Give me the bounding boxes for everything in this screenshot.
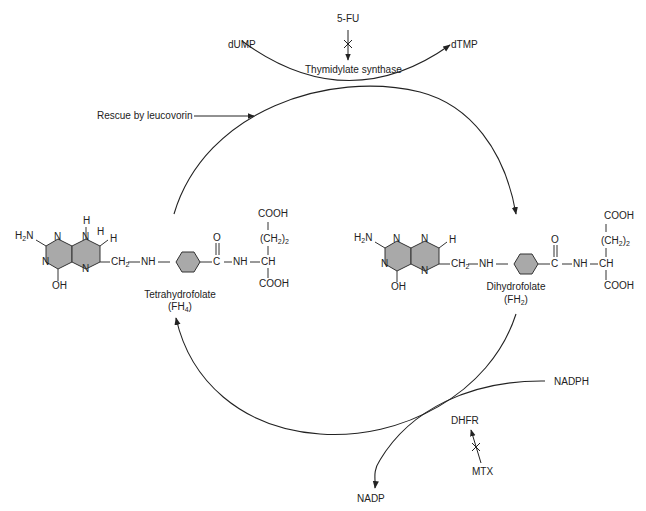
- fh4-alpha-ch: CH: [261, 257, 275, 267]
- pathway-diagram: [0, 0, 646, 511]
- fh2-carbonyl-c: C: [551, 259, 558, 269]
- fh4-carbonyl-o: O: [213, 233, 221, 243]
- fh4-ch2: CH2: [111, 257, 129, 267]
- fh2-h-c7: H: [449, 235, 456, 245]
- fh4-n5: N: [82, 264, 89, 274]
- fh2-cooh-top: COOH: [604, 211, 634, 221]
- fh4-h-n8: H: [83, 216, 90, 226]
- dihydrofolate-structure: [385, 241, 439, 271]
- fh4-h-c7b: H: [110, 234, 117, 244]
- fh4-cooh-top: COOH: [258, 209, 288, 219]
- fh4-carbonyl-c: C: [213, 257, 220, 267]
- mtx-block-x-icon: [472, 443, 480, 451]
- fh2-amide-nh: NH: [573, 259, 587, 269]
- fh2-hydroxyl: OH: [391, 282, 406, 292]
- fh4-hydroxyl: OH: [52, 281, 67, 291]
- fh4-amino-group: H2N: [15, 231, 33, 241]
- tetrahydrofolate-label: Tetrahydrofolate: [140, 290, 220, 300]
- fh2-n5: N: [421, 266, 428, 276]
- fh4-n8: N: [82, 232, 89, 242]
- fh4-n3: N: [42, 257, 49, 267]
- fh4-cooh-bottom: COOH: [259, 279, 289, 289]
- fh4-n1: N: [54, 232, 61, 242]
- dihydrofolate-label: Dihydrofolate: [476, 282, 556, 292]
- fh4-nh: NH: [141, 257, 155, 267]
- dump-label: dUMP: [228, 40, 256, 50]
- thymidylate-synthase-label: Thymidylate synthase: [305, 65, 402, 75]
- fh4-ch2-2: (CH2)2: [260, 234, 289, 244]
- fh4-abbr: (FH4): [140, 302, 220, 312]
- fh2-carbonyl-o: O: [551, 235, 559, 245]
- dtmp-label: dTMP: [451, 40, 478, 50]
- fh2-alpha-ch: CH: [599, 259, 613, 269]
- fh2-nh: NH: [479, 259, 493, 269]
- mtx-label: MTX: [472, 467, 493, 477]
- tetrahydrofolate-structure: [44, 230, 100, 276]
- fh2-abbr: (FH2): [476, 295, 556, 305]
- fh2-amino-group: H2N: [354, 233, 372, 243]
- benzene-ring-fh4: [176, 252, 200, 272]
- fh2-n1: N: [393, 234, 400, 244]
- fh2-ch2-2: (CH2)2: [601, 236, 630, 246]
- fh2-n3: N: [381, 259, 388, 269]
- nadp-label: NADP: [357, 494, 385, 504]
- rescue-leucovorin-label: Rescue by leucovorin: [97, 111, 193, 121]
- benzene-ring-fh2: [514, 254, 538, 274]
- nadph-to-nadp-arrow: [375, 381, 545, 488]
- fh4-h-c7a: H: [97, 227, 104, 237]
- nadph-label: NADPH: [554, 377, 589, 387]
- dhfr-label: DHFR: [451, 416, 479, 426]
- fh4-amide-nh: NH: [233, 257, 247, 267]
- five-fu-label: 5-FU: [337, 14, 359, 24]
- fh4-to-fh2-arc: [174, 86, 516, 214]
- fh2-cooh-bottom: COOH: [604, 281, 634, 291]
- fh2-n8: N: [421, 234, 428, 244]
- fh2-ch2: CH2: [451, 259, 469, 269]
